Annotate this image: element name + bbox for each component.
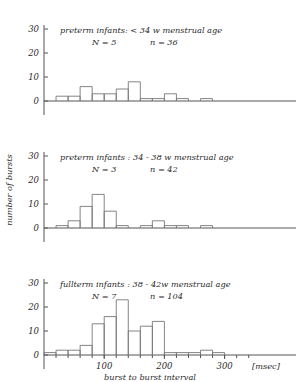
bar-panel-1-bin-40 <box>68 221 80 228</box>
y-tick-label-30-panel-1: 30 <box>28 151 39 161</box>
bar-panel-2-bin-160 <box>140 326 152 355</box>
x-tick-label-200: 200 <box>155 361 173 371</box>
histogram-figure: 0102030preterm infants: < 34 w menstrual… <box>0 0 303 382</box>
y-tick-label-0-panel-0: 0 <box>34 96 40 106</box>
bar-panel-0-bin-200 <box>164 94 176 101</box>
y-tick-label-10-panel-0: 10 <box>28 72 39 82</box>
bar-panel-2-bin-180 <box>152 321 164 355</box>
panel-subtitle-left-2: N = 7 <box>91 291 117 301</box>
y-tick-label-30-panel-0: 30 <box>28 24 39 34</box>
bar-panel-1-bin-100 <box>104 211 116 228</box>
x-tick-label-100: 100 <box>96 361 113 371</box>
panel-title-2: fullterm infants : 38 - 42w menstrual ag… <box>59 279 231 289</box>
panel-title-1: preterm infants : 34 - 38 w menstrual ag… <box>60 152 234 162</box>
bar-panel-2-bin-260 <box>201 350 213 355</box>
y-tick-label-20-panel-1: 20 <box>27 175 39 185</box>
bar-panel-0-bin-40 <box>68 96 80 101</box>
bar-panel-2-bin-80 <box>92 324 104 355</box>
chart-canvas: 0102030preterm infants: < 34 w menstrual… <box>0 0 303 382</box>
bar-panel-0-bin-140 <box>128 82 140 101</box>
bar-panel-1-bin-80 <box>92 194 104 228</box>
panel-title-0: preterm infants: < 34 w menstrual age <box>60 25 222 35</box>
panel-subtitle-right-2: n = 104 <box>150 291 183 301</box>
bar-panel-0-bin-20 <box>56 96 68 101</box>
bar-panel-0-bin-100 <box>104 94 116 101</box>
y-tick-label-10-panel-1: 10 <box>28 199 39 209</box>
bar-panel-1-bin-60 <box>80 206 92 228</box>
bar-panel-2-bin-140 <box>128 331 140 355</box>
panel-subtitle-right-1: n = 42 <box>150 164 178 174</box>
y-tick-label-20-panel-2: 20 <box>27 302 39 312</box>
y-tick-label-0-panel-1: 0 <box>34 223 40 233</box>
bar-panel-2-bin-40 <box>68 350 80 355</box>
x-axis-unit: [msec] <box>252 361 281 371</box>
y-axis-title: number of bursts <box>4 154 14 226</box>
y-tick-label-20-panel-0: 20 <box>27 48 39 58</box>
bar-panel-2-bin-120 <box>116 300 128 355</box>
panel-subtitle-left-1: N = 3 <box>91 164 116 174</box>
x-tick-label-300: 300 <box>216 361 233 371</box>
bar-panel-0-bin-80 <box>92 94 104 101</box>
y-tick-label-10-panel-2: 10 <box>28 326 39 336</box>
y-tick-label-0-panel-2: 0 <box>34 350 40 360</box>
bar-panel-2-bin-100 <box>104 317 116 355</box>
bar-panel-2-bin-20 <box>56 350 68 355</box>
panel-subtitle-left-0: N = 5 <box>91 37 116 47</box>
bar-panel-2-bin-60 <box>80 345 92 355</box>
panel-subtitle-right-0: n = 36 <box>150 37 178 47</box>
x-axis-title: burst to burst interval <box>104 372 196 382</box>
y-tick-label-30-panel-2: 30 <box>28 278 39 288</box>
bar-panel-0-bin-120 <box>116 89 128 101</box>
bar-panel-0-bin-60 <box>80 87 92 101</box>
bar-panel-1-bin-180 <box>152 221 164 228</box>
